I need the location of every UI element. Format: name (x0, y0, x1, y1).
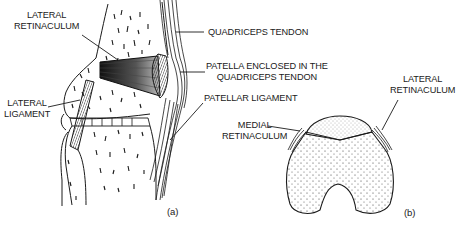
label-line: QUADRICEPS TENDON (206, 72, 328, 83)
label-lateral-retinaculum-b: LATERAL RETINACULUM (390, 74, 455, 96)
label-line: LIGAMENT (4, 109, 50, 120)
label-line: RETINACULUM (390, 85, 455, 96)
label-patellar-ligament: PATELLAR LIGAMENT (204, 93, 297, 104)
label-line: LATERAL (14, 10, 79, 21)
label-line: RETINACULUM (222, 131, 287, 142)
label-lateral-retinaculum-a: LATERAL RETINACULUM (14, 10, 79, 32)
label-medial-retinaculum: MEDIAL RETINACULUM (222, 120, 287, 142)
label-line: PATELLA ENCLOSED IN THE (206, 61, 328, 72)
label-patella-enclosed: PATELLA ENCLOSED IN THE QUADRICEPS TENDO… (206, 61, 328, 83)
label-lateral-ligament: LATERAL LIGAMENT (4, 98, 50, 120)
panel-b-id: (b) (404, 207, 415, 218)
label-line: LATERAL (390, 74, 455, 85)
label-line: LATERAL (4, 98, 50, 109)
label-line: RETINACULUM (14, 21, 79, 32)
knee-anatomy-figure: LATERAL RETINACULUM LATERAL LIGAMENT QUA… (0, 0, 464, 231)
label-quadriceps-tendon: QUADRICEPS TENDON (208, 27, 308, 38)
panel-b-drawing (287, 116, 394, 213)
panel-a-drawing (61, 0, 187, 206)
panel-a-id: (a) (167, 206, 178, 217)
label-line: MEDIAL (222, 120, 287, 131)
